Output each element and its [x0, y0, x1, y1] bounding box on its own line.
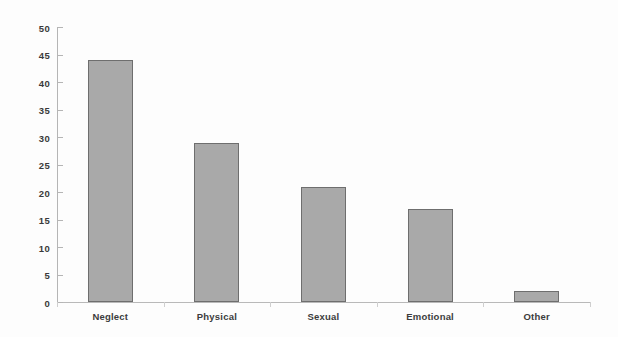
y-tick-label: 10 [39, 242, 50, 253]
x-axis-label-physical: Physical [164, 311, 271, 322]
bar-emotional [408, 209, 453, 303]
x-tick-mark [164, 302, 165, 307]
y-tick-label: 5 [44, 270, 50, 281]
y-tick-label: 25 [39, 160, 50, 171]
y-tick-label: 50 [39, 22, 50, 33]
bar-other [514, 291, 559, 302]
x-tick-mark [590, 302, 591, 307]
x-tick-mark [377, 302, 378, 307]
bar-physical [194, 143, 239, 303]
x-tick-mark [270, 302, 271, 307]
bar-sexual [301, 187, 346, 303]
x-axis-label-other: Other [483, 311, 590, 322]
y-tick-label: 30 [39, 132, 50, 143]
x-axis-line [57, 302, 590, 303]
x-axis-label-emotional: Emotional [377, 311, 484, 322]
x-tick-mark [483, 302, 484, 307]
y-tick-label: 15 [39, 215, 50, 226]
y-tick-label: 35 [39, 105, 50, 116]
bar-neglect [88, 60, 133, 302]
bar-chart: 05101520253035404550 NeglectPhysicalSexu… [0, 0, 618, 337]
y-tick-label: 40 [39, 77, 50, 88]
bars-layer [57, 27, 590, 302]
x-tick-mark [57, 302, 58, 307]
x-axis-label-sexual: Sexual [270, 311, 377, 322]
y-tick-label: 45 [39, 50, 50, 61]
x-axis-label-neglect: Neglect [57, 311, 164, 322]
y-tick-label: 0 [44, 297, 50, 308]
y-tick-label: 20 [39, 187, 50, 198]
